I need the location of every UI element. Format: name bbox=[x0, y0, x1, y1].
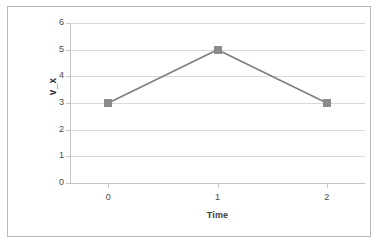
x-tick-mark bbox=[327, 184, 328, 188]
chart-frame: 0123456 012 v_x Time bbox=[7, 6, 371, 237]
data-point-marker bbox=[323, 99, 331, 107]
x-tick-label: 1 bbox=[198, 193, 238, 202]
y-tick-label: 5 bbox=[20, 45, 64, 54]
y-tick-label: 1 bbox=[20, 151, 64, 160]
chart-screenshot: 0123456 012 v_x Time bbox=[0, 0, 384, 247]
y-axis-title: v_x bbox=[47, 57, 58, 117]
y-tick-label: 0 bbox=[20, 178, 64, 187]
plot-area bbox=[70, 23, 365, 183]
data-point-marker bbox=[214, 46, 222, 54]
y-tick-mark bbox=[66, 183, 70, 184]
y-tick-label: 6 bbox=[20, 18, 64, 27]
y-axis-tick-labels: 0123456 bbox=[14, 7, 64, 238]
x-axis-title: Time bbox=[70, 210, 365, 220]
x-tick-mark bbox=[108, 184, 109, 188]
x-tick-label: 2 bbox=[307, 193, 347, 202]
data-point-marker bbox=[104, 99, 112, 107]
x-tick-label: 0 bbox=[88, 193, 128, 202]
y-tick-label: 2 bbox=[20, 125, 64, 134]
x-tick-mark bbox=[218, 184, 219, 188]
